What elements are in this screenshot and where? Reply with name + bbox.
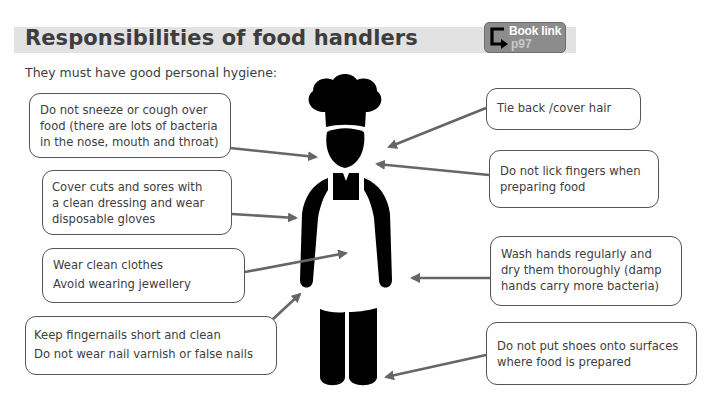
tip-text: Wear clean clothes bbox=[53, 256, 234, 275]
tip-box-lick: Do not lick fingers when preparing food bbox=[489, 150, 659, 208]
tip-box-fingernails: Keep fingernails short and clean Do not … bbox=[25, 316, 277, 375]
tip-text: food (there are lots of bacteria bbox=[40, 118, 220, 134]
tip-box-clothes: Wear clean clothes Avoid wearing jewelle… bbox=[42, 248, 245, 303]
tip-text: Avoid wearing jewellery bbox=[53, 275, 234, 294]
arrow-fingernails bbox=[272, 294, 300, 320]
tip-text: Do not wear nail varnish or false nails bbox=[34, 345, 266, 364]
tip-text: a clean dressing and wear bbox=[52, 195, 221, 211]
tip-text: Wash hands regularly and bbox=[501, 246, 671, 262]
tip-box-hair: Tie back /cover hair bbox=[486, 88, 641, 130]
tip-text: where food is prepared bbox=[497, 354, 686, 370]
tip-text: Cover cuts and sores with bbox=[52, 179, 221, 195]
tip-box-wash: Wash hands regularly and dry them thorou… bbox=[490, 236, 682, 306]
tip-text: in the nose, mouth and throat) bbox=[40, 134, 220, 150]
arrow-hair bbox=[389, 108, 486, 147]
arrow-clothes bbox=[245, 253, 346, 272]
tip-text: Do not sneeze or cough over bbox=[40, 102, 220, 118]
tip-box-sneeze: Do not sneeze or cough over food (there … bbox=[29, 93, 231, 158]
arrow-lick bbox=[377, 164, 489, 175]
tip-text: Tie back /cover hair bbox=[497, 100, 630, 116]
tip-text: preparing food bbox=[500, 179, 648, 195]
tip-box-shoes: Do not put shoes onto surfaces where foo… bbox=[486, 322, 697, 385]
arrow-cuts bbox=[232, 214, 296, 218]
tip-text: Do not lick fingers when bbox=[500, 163, 648, 179]
chef-figure-icon bbox=[300, 74, 392, 385]
arrow-sneeze bbox=[230, 148, 316, 157]
tip-text: Do not put shoes onto surfaces bbox=[497, 338, 686, 354]
tip-text: hands carry more bacteria) bbox=[501, 278, 671, 294]
tip-box-cuts: Cover cuts and sores with a clean dressi… bbox=[42, 170, 232, 235]
arrow-shoes bbox=[386, 355, 486, 377]
tip-text: disposable gloves bbox=[52, 211, 221, 227]
tip-text: Keep fingernails short and clean bbox=[34, 326, 266, 345]
tip-text: dry them thoroughly (damp bbox=[501, 262, 671, 278]
